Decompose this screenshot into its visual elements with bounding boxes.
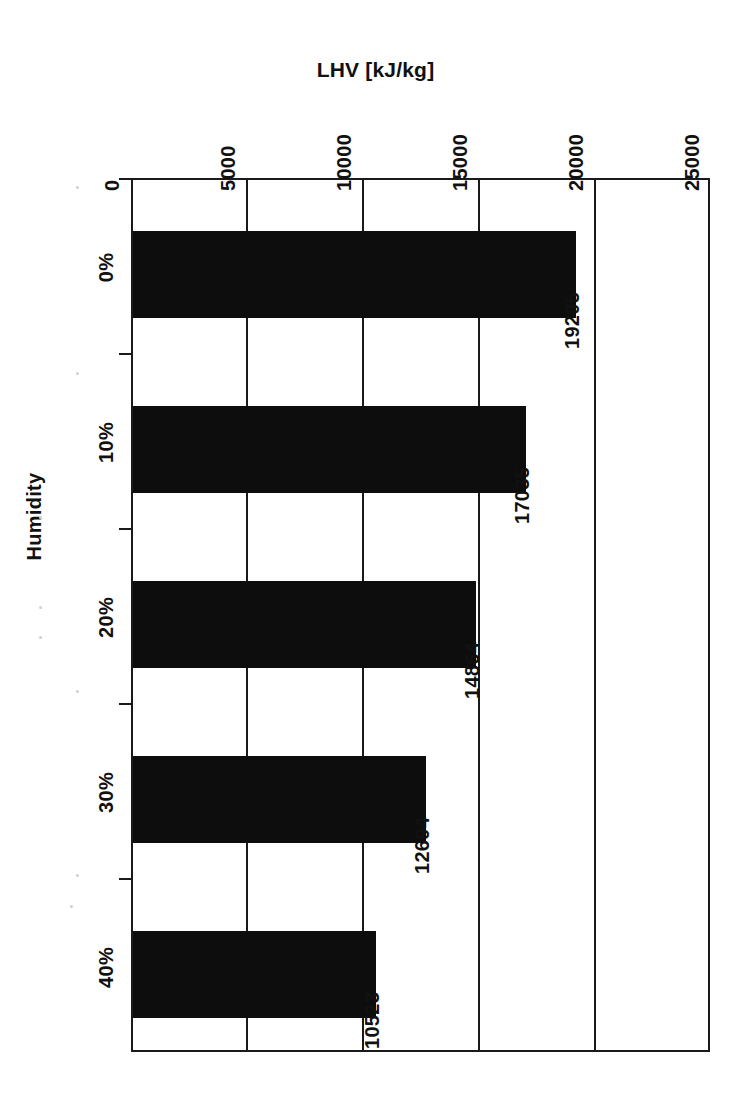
- scan-speck: [76, 874, 79, 877]
- category-tick-3: [119, 703, 131, 705]
- bar-0pct: [133, 231, 576, 318]
- category-tick-1: [119, 353, 131, 355]
- bar-40pct: [133, 931, 376, 1018]
- category-tick-2: [119, 528, 131, 530]
- scan-speck: [70, 905, 73, 908]
- bar-value-20pct: 14864: [461, 642, 484, 699]
- category-label-20pct: 20%: [95, 558, 118, 678]
- category-label-30pct: 30%: [95, 733, 118, 853]
- bar-value-30pct: 12694: [411, 817, 434, 874]
- value-tick-label-0: 0: [101, 180, 124, 191]
- bar-30pct: [133, 756, 426, 843]
- bar-value-0pct: 19205: [561, 292, 584, 349]
- category-label-40pct: 40%: [95, 908, 118, 1028]
- value-tick-label-5000: 5000: [217, 145, 240, 191]
- chart-title: LHV [kJ/kg]: [0, 58, 751, 82]
- category-tick-4: [119, 878, 131, 880]
- value-tick-label-25000: 25000: [681, 134, 704, 191]
- category-label-0pct: 0%: [95, 208, 118, 328]
- bar-20pct: [133, 581, 476, 668]
- scan-speck: [76, 690, 79, 693]
- value-tick-label-20000: 20000: [565, 134, 588, 191]
- value-tick-label-15000: 15000: [449, 134, 472, 191]
- bar-10pct: [133, 406, 526, 493]
- category-label-10pct: 10%: [95, 383, 118, 503]
- gridline-20000: [594, 178, 596, 1052]
- scan-speck: [76, 186, 79, 189]
- bar-chart-figure: LHV [kJ/kg] 0 5000 10000 15000 20000 250…: [0, 0, 751, 1110]
- category-axis-title: Humidity: [23, 447, 46, 587]
- scan-speck: [39, 516, 42, 519]
- scan-speck: [39, 606, 42, 609]
- scan-speck: [76, 372, 79, 375]
- bar-value-10pct: 17035: [511, 467, 534, 524]
- category-tick-top: [119, 178, 132, 180]
- value-tick-label-10000: 10000: [333, 134, 356, 191]
- scan-speck: [39, 636, 42, 639]
- bar-value-40pct: 10523: [361, 992, 384, 1049]
